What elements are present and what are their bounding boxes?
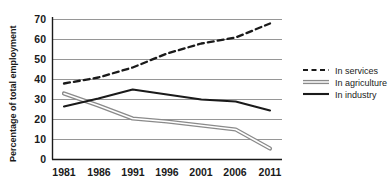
chart-background <box>0 0 391 192</box>
y-tick-label-40: 40 <box>34 73 46 85</box>
x-tick-label-2001: 2001 <box>189 166 213 178</box>
y-tick-label-70: 70 <box>34 13 46 25</box>
y-tick-label-0: 0 <box>40 153 46 165</box>
y-tick-label-60: 60 <box>34 33 46 45</box>
x-tick-label-1981: 1981 <box>52 166 76 178</box>
legend-label-agriculture: In agriculture <box>335 78 387 88</box>
y-tick-label-10: 10 <box>34 133 46 145</box>
x-tick-label-1986: 1986 <box>87 166 111 178</box>
legend-label-services: In services <box>335 66 379 76</box>
x-tick-label-1991: 1991 <box>121 166 145 178</box>
legend-label-industry: In industry <box>335 90 377 100</box>
y-tick-label-50: 50 <box>34 53 46 65</box>
x-tick-label-2006: 2006 <box>223 166 247 178</box>
chart-legend: In services In agriculture In industry <box>303 66 387 100</box>
x-tick-label-2011: 2011 <box>259 166 282 178</box>
y-tick-label-20: 20 <box>34 113 46 125</box>
y-axis-title: Percentage of total employment <box>8 25 18 162</box>
chart-canvas: Percentage of total employment 70 60 50 … <box>0 0 391 192</box>
x-tick-label-1996: 1996 <box>155 166 179 178</box>
line-chart-figure: Percentage of total employment 70 60 50 … <box>0 0 391 192</box>
y-tick-label-30: 30 <box>34 93 46 105</box>
